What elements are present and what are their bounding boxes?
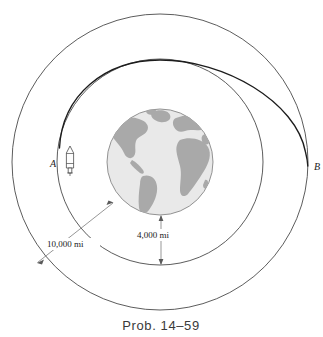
dimension-earth-gap-arrow-bottom bbox=[159, 259, 164, 265]
dimension-outer-radius-label: 10,000 mi bbox=[47, 239, 84, 249]
dimension-earth-gap-arrow-top bbox=[159, 215, 164, 221]
dimension-earth-gap: 4,000 mi bbox=[134, 215, 189, 265]
point-label-a: A bbox=[49, 158, 57, 169]
dimension-outer-radius-arrow-end bbox=[107, 201, 114, 206]
earth-globe bbox=[107, 109, 213, 215]
figure-canvas: A B 10,000 mi 4,000 mi Prob. 14–59 bbox=[0, 0, 323, 337]
rocket-hull bbox=[66, 146, 73, 168]
dimension-outer-radius-line bbox=[38, 203, 114, 263]
dimension-earth-gap-label: 4,000 mi bbox=[137, 230, 170, 240]
point-label-b: B bbox=[314, 161, 320, 172]
orbital-transfer-figure: A B 10,000 mi 4,000 mi Prob. 14–59 bbox=[0, 0, 323, 337]
rocket-icon bbox=[66, 146, 73, 176]
continent-east-limb bbox=[205, 120, 212, 131]
figure-caption: Prob. 14–59 bbox=[122, 318, 199, 333]
continent-arabia bbox=[202, 134, 212, 145]
dimension-outer-radius: 10,000 mi bbox=[37, 201, 114, 265]
rocket-nozzle bbox=[68, 168, 72, 173]
continent-europe bbox=[173, 116, 208, 132]
